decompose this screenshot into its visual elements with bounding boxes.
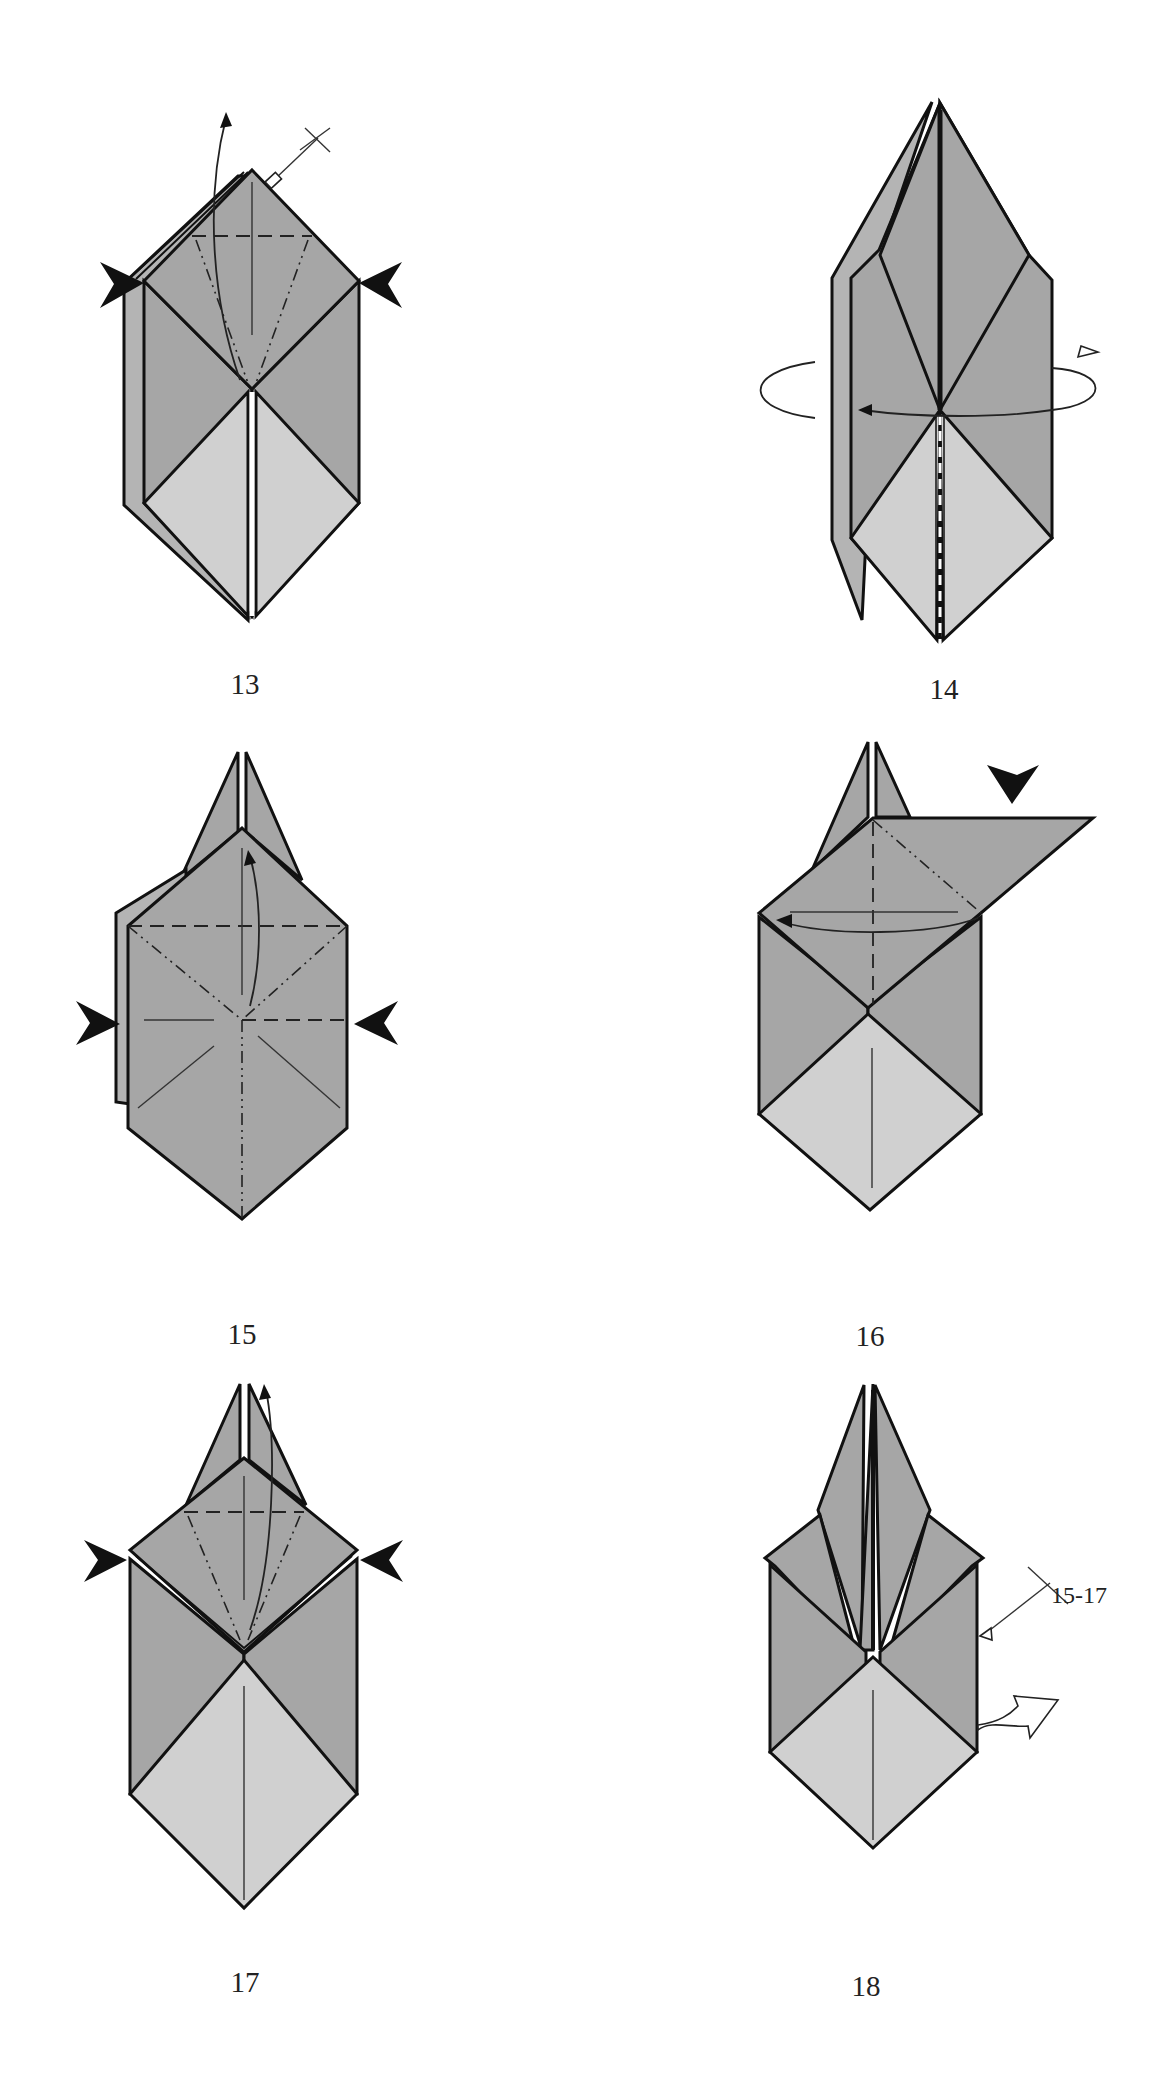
origami-diagram-page: 13 14 15 16 17 18 15-17 (0, 0, 1162, 2097)
push-arrow-right-icon (359, 262, 402, 308)
step-14-figure (761, 102, 1098, 650)
step-18-figure (765, 1384, 1068, 1848)
push-arrow-right-icon (360, 1540, 403, 1582)
step-label-18: 18 (852, 1972, 881, 2001)
step-label-15: 15 (228, 1320, 257, 1349)
step-16-figure (759, 742, 1093, 1210)
repeat-steps-annotation: 15-17 (1051, 1583, 1107, 1607)
push-arrow-left-icon (76, 1001, 120, 1045)
push-arrow-left-icon (84, 1540, 127, 1582)
step-label-16: 16 (856, 1322, 885, 1351)
step-13-figure (100, 112, 402, 620)
push-arrow-right-icon (354, 1001, 398, 1045)
step-label-13: 13 (231, 670, 260, 699)
step-17-figure (84, 1384, 403, 1908)
push-arrow-down-icon (987, 765, 1039, 804)
step-label-17: 17 (231, 1968, 260, 1997)
step-15-figure (76, 752, 398, 1219)
step-label-14: 14 (930, 675, 959, 704)
